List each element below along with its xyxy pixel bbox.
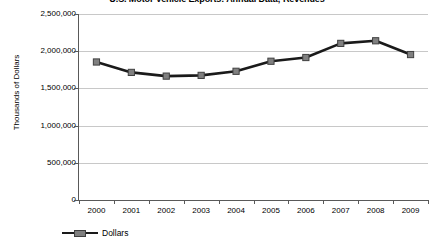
y-axis-tick-label: 2,000,000: [4, 46, 76, 55]
data-point-marker: [373, 38, 379, 44]
data-point-marker: [338, 40, 344, 46]
y-axis-tick: [74, 14, 79, 15]
chart-legend: Dollars: [62, 228, 128, 238]
series-line: [96, 41, 410, 76]
x-axis-tick-label: 2009: [389, 206, 433, 215]
y-axis-tick: [74, 163, 79, 164]
y-axis-tick-label: 0: [4, 195, 76, 204]
x-axis-tick: [254, 200, 255, 204]
data-point-marker: [163, 73, 169, 79]
y-axis-tick: [74, 88, 79, 89]
y-axis-tick: [74, 51, 79, 52]
x-axis-tick: [428, 200, 429, 204]
x-axis-tick: [184, 200, 185, 204]
data-point-marker: [128, 69, 134, 75]
data-point-marker: [233, 68, 239, 74]
x-axis-tick: [323, 200, 324, 204]
x-axis-tick: [149, 200, 150, 204]
x-axis-tick: [219, 200, 220, 204]
data-point-marker: [303, 54, 309, 60]
data-point-marker: [407, 51, 413, 57]
y-axis-tick: [74, 126, 79, 127]
x-axis-tick: [79, 200, 80, 204]
y-axis-tick-label: 1,500,000: [4, 83, 76, 92]
legend-label-dollars: Dollars: [102, 228, 128, 238]
x-axis-tick: [358, 200, 359, 204]
y-axis-tick-label: 500,000: [4, 158, 76, 167]
series-dollars: [79, 14, 428, 200]
data-point-marker: [198, 72, 204, 78]
y-axis-tick-labels: 2,500,0002,000,0001,500,0001,000,000500,…: [0, 0, 76, 246]
y-axis-tick-label: 2,500,000: [4, 9, 76, 18]
legend-marker-dollars: [62, 229, 98, 238]
data-point-marker: [268, 58, 274, 64]
y-axis-tick-label: 1,000,000: [4, 121, 76, 130]
x-axis-tick: [114, 200, 115, 204]
x-axis-tick: [393, 200, 394, 204]
chart-container: U.S. Motor Vehicle Exports: Annual Data;…: [0, 0, 434, 246]
data-point-marker: [93, 59, 99, 65]
x-axis-tick: [288, 200, 289, 204]
